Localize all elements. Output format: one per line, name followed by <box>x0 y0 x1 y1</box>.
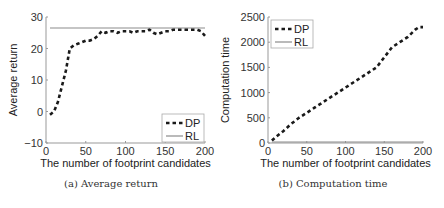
computation-time-chart: 05010015020005001000150020002500The numb… <box>219 11 432 169</box>
x-tick-label: 150 <box>375 145 393 157</box>
y-tick-label: 500 <box>247 112 265 124</box>
legend-rl-label: RL <box>294 36 308 48</box>
average-return-chart: 050100150200−100102030The number of foot… <box>7 11 214 169</box>
x-tick-label: 50 <box>301 145 313 157</box>
x-tick-label: 50 <box>80 145 92 157</box>
y-tick-label: −10 <box>24 137 43 149</box>
x-tick-label: 100 <box>116 145 134 157</box>
series-dp-line <box>50 30 205 115</box>
y-tick-label: 1000 <box>241 87 265 99</box>
legend-dp-label: DP <box>185 117 200 129</box>
x-tick-label: 0 <box>265 145 271 157</box>
y-tick-label: 0 <box>259 137 265 149</box>
legend: DPRL <box>271 20 313 48</box>
x-axis-label: The number of footprint candidates <box>260 157 431 169</box>
y-tick-label: 2500 <box>241 11 265 23</box>
legend-dp-label: DP <box>294 23 309 35</box>
y-tick-label: 30 <box>31 11 43 23</box>
y-tick-label: 0 <box>37 106 43 118</box>
y-axis-label: Average return <box>7 44 19 117</box>
x-tick-label: 200 <box>196 145 214 157</box>
figure: 050100150200−100102030The number of foot… <box>0 0 444 208</box>
y-tick-label: 1500 <box>241 61 265 73</box>
caption-average-return: (a) Average return <box>0 178 222 189</box>
legend: DPRL <box>162 114 204 142</box>
x-tick-label: 150 <box>156 145 174 157</box>
x-axis-label: The number of footprint candidates <box>40 157 211 169</box>
y-tick-label: 10 <box>31 74 43 86</box>
x-tick-label: 100 <box>336 145 354 157</box>
y-tick-label: 2000 <box>241 36 265 48</box>
x-tick-label: 200 <box>414 145 432 157</box>
y-axis-label: Computation time <box>219 37 231 123</box>
caption-computation-time: (b) Computation time <box>222 178 444 189</box>
legend-rl-label: RL <box>185 130 199 142</box>
y-tick-label: 20 <box>31 43 43 55</box>
x-tick-label: 0 <box>43 145 49 157</box>
